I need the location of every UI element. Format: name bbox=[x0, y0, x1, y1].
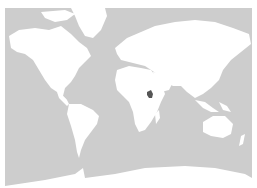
world-map bbox=[5, 8, 252, 186]
world-map-svg bbox=[5, 8, 252, 186]
